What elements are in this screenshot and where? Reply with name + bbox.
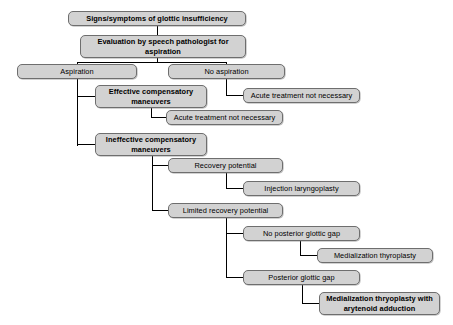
node-label: Recovery potential bbox=[172, 161, 279, 171]
node-label: No posterior glottic gap bbox=[247, 229, 356, 239]
connector-evaluation-split-bar bbox=[77, 62, 227, 63]
node-label: Medialization thyroplasty bbox=[321, 251, 429, 261]
node-label: Acute treatment not necessary bbox=[247, 91, 356, 101]
connector-ineffective-to-limited bbox=[152, 210, 169, 211]
node-label: Evaluation by speech pathologist for asp… bbox=[84, 37, 242, 56]
connector-noaspiration-spine bbox=[226, 79, 227, 96]
node-noposterior[interactable]: No posterior glottic gap bbox=[243, 226, 360, 241]
connector-limited-to-posterior bbox=[226, 277, 244, 278]
connector-recovery-to-injection bbox=[226, 188, 244, 189]
node-signs[interactable]: Signs/symptoms of glottic insufficiency bbox=[68, 11, 246, 26]
node-label: Acute treatment not necessary bbox=[170, 113, 279, 123]
node-label: No aspiration bbox=[172, 67, 281, 77]
node-label: Signs/symptoms of glottic insufficiency bbox=[72, 14, 242, 24]
flowchart-canvas: Signs/symptoms of glottic insufficiencyE… bbox=[0, 0, 453, 325]
node-injection[interactable]: Injection laryngoplasty bbox=[243, 181, 360, 196]
node-label: Medialization thryoplasty with arytenoid… bbox=[323, 294, 436, 313]
connector-ineffective-to-recovery bbox=[152, 165, 169, 166]
connector-aspiration-to-effective bbox=[77, 96, 96, 97]
connector-recovery-spine bbox=[226, 173, 227, 189]
node-label: Posterior glottic gap bbox=[247, 273, 356, 283]
connector-limited-to-noposterior bbox=[226, 233, 244, 234]
node-label: Aspiration bbox=[21, 67, 133, 77]
node-noaspiration[interactable]: No aspiration bbox=[168, 64, 285, 79]
node-acute2[interactable]: Acute treatment not necessary bbox=[166, 110, 283, 125]
node-recovery[interactable]: Recovery potential bbox=[168, 158, 283, 173]
node-label: Limited recovery potential bbox=[172, 206, 279, 216]
node-evaluation[interactable]: Evaluation by speech pathologist for asp… bbox=[80, 35, 246, 58]
connector-limited-spine bbox=[226, 218, 227, 278]
connector-signs-to-evaluation bbox=[157, 26, 158, 35]
node-ineffective[interactable]: Ineffective compensatory maneuvers bbox=[95, 133, 207, 156]
connector-noaspiration-to-acute1 bbox=[226, 95, 244, 96]
node-acute1[interactable]: Acute treatment not necessary bbox=[243, 88, 360, 103]
node-label: Ineffective compensatory maneuvers bbox=[99, 135, 203, 154]
connector-posterior-spine bbox=[302, 285, 303, 304]
connector-aspiration-spine bbox=[77, 79, 78, 146]
node-aspiration[interactable]: Aspiration bbox=[17, 64, 137, 79]
node-posterior[interactable]: Posterior glottic gap bbox=[243, 270, 360, 285]
connector-aspiration-to-ineffective bbox=[77, 144, 96, 145]
node-label: Effective compensatory maneuvers bbox=[99, 87, 203, 106]
connector-noposterior-spine bbox=[300, 241, 301, 256]
node-limited[interactable]: Limited recovery potential bbox=[168, 203, 283, 218]
connector-effective-to-acute2 bbox=[151, 117, 167, 118]
node-label: Injection laryngoplasty bbox=[247, 184, 356, 194]
connector-noposterior-to-medthyro bbox=[300, 255, 318, 256]
connector-posterior-to-medthyroaryt bbox=[302, 303, 320, 304]
node-effective[interactable]: Effective compensatory maneuvers bbox=[95, 85, 207, 108]
node-medthyroaryt[interactable]: Medialization thryoplasty with arytenoid… bbox=[319, 292, 440, 315]
node-medthyro[interactable]: Medialization thyroplasty bbox=[317, 248, 433, 263]
